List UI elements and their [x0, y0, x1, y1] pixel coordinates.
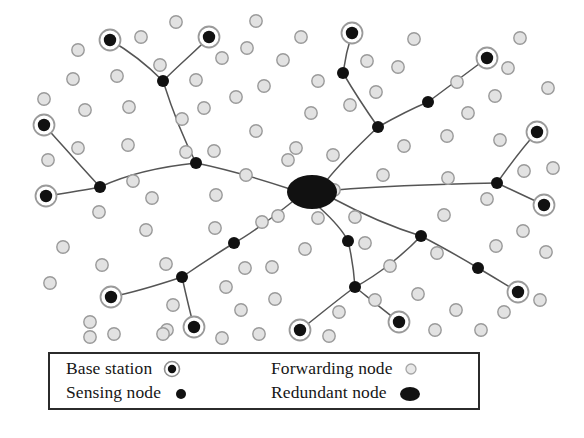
forwarding-node [517, 225, 529, 237]
forwarding-node [122, 139, 134, 151]
forwarding-node [241, 42, 253, 54]
network-topology-figure: Base station Forwarding node Sensin [0, 0, 584, 438]
legend-label-forwarding-node: Forwarding node [271, 360, 393, 378]
forwarding-node [295, 31, 307, 43]
forwarding-node [299, 243, 311, 255]
forwarding-node [269, 293, 281, 305]
forwarding-node [72, 44, 84, 56]
base-station-node [508, 282, 529, 303]
forwarding-node [290, 142, 302, 154]
base-station-node [342, 23, 363, 44]
network-link [421, 236, 478, 268]
forwarding-node [266, 261, 278, 273]
legend-box: Base station Forwarding node Sensin [48, 352, 480, 410]
network-link [182, 243, 234, 277]
sensing-node-symbol [171, 383, 191, 403]
forwarding-node-symbol [403, 361, 419, 377]
forwarding-node [198, 102, 210, 114]
forwarding-node [216, 332, 228, 344]
forwarding-node [323, 330, 335, 342]
network-link [336, 183, 497, 190]
redundant-node-symbol [397, 383, 423, 403]
forwarding-node [157, 328, 169, 340]
forwarding-node [111, 70, 123, 82]
sensing-node [472, 262, 484, 274]
forwarding-node [451, 76, 463, 88]
base-station-node [101, 287, 122, 308]
forwarding-node [361, 55, 373, 67]
forwarding-node [370, 86, 382, 98]
forwarding-node [190, 74, 202, 86]
forwarding-node [369, 294, 381, 306]
forwarding-node [312, 75, 324, 87]
forwarding-node [398, 140, 410, 152]
base-station-node [477, 48, 498, 69]
forwarding-node [127, 175, 139, 187]
sensing-node [415, 230, 427, 242]
forwarding-node [494, 134, 506, 146]
forwarding-node [312, 212, 324, 224]
forwarding-node [250, 125, 262, 137]
forwarding-node [160, 258, 172, 270]
forwarding-node [514, 32, 526, 44]
forwarding-node [210, 189, 222, 201]
sensing-node [157, 75, 169, 87]
forwarding-node [38, 93, 50, 105]
forwarding-node [176, 113, 188, 125]
forwarding-node [441, 130, 453, 142]
forwarding-node [333, 306, 345, 318]
sensing-node [337, 67, 349, 79]
sensing-node [176, 271, 188, 283]
forwarding-node [349, 211, 361, 223]
network-diagram-canvas [0, 0, 584, 360]
forwarding-node [384, 260, 396, 272]
sensing-node [372, 121, 384, 133]
legend-label-redundant-node: Redundant node [271, 384, 387, 402]
legend-grid: Base station Forwarding node Sensin [50, 354, 478, 408]
forwarding-node [256, 216, 268, 228]
forwarding-node [140, 224, 152, 236]
sensing-node [190, 157, 202, 169]
forwarding-node [442, 172, 454, 184]
network-link [348, 241, 355, 287]
forwarding-node [123, 101, 135, 113]
forwarding-node [412, 288, 424, 300]
base-station-node [184, 317, 205, 338]
legend-item-sensing-node: Sensing node [66, 383, 261, 403]
legend-label-base-station: Base station [66, 360, 152, 378]
sensing-node [491, 177, 503, 189]
forwarding-node [462, 107, 474, 119]
sensing-node [228, 237, 240, 249]
forwarding-node [277, 54, 289, 66]
forwarding-node [72, 142, 84, 154]
redundant-node [287, 175, 337, 209]
base-station-node [34, 115, 55, 136]
legend-item-base-station: Base station [66, 359, 261, 379]
forwarding-node [240, 169, 252, 181]
base-station-node [100, 30, 121, 51]
forwarding-node [258, 80, 270, 92]
forwarding-node [220, 281, 232, 293]
base-station-node [534, 195, 555, 216]
forwarding-node [67, 73, 79, 85]
base-station-symbol [162, 359, 182, 379]
forwarding-node [327, 149, 339, 161]
forwarding-node [239, 262, 251, 274]
base-station-node [199, 27, 220, 48]
forwarding-node [534, 294, 546, 306]
base-station-node [389, 312, 410, 333]
forwarding-node [167, 299, 179, 311]
forwarding-node [84, 331, 96, 343]
forwarding-node [146, 192, 158, 204]
forwarding-node [253, 328, 265, 340]
legend-item-redundant-node: Redundant node [271, 383, 466, 403]
forwarding-node [408, 33, 420, 45]
forwarding-node [235, 304, 247, 316]
forwarding-node [170, 16, 182, 28]
forwarding-node [93, 206, 105, 218]
forwarding-node [208, 145, 220, 157]
sensing-node [342, 235, 354, 247]
forwarding-node [135, 31, 147, 43]
sensing-node [94, 181, 106, 193]
forwarding-node [250, 15, 262, 27]
